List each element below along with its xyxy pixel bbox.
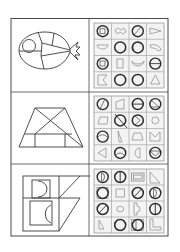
choice-grid-trapezoid — [94, 96, 164, 161]
b-shape-figure — [23, 176, 90, 231]
choice-grid-b-shape — [94, 169, 164, 233]
fish-figure — [19, 32, 80, 69]
choice-grid-fish — [94, 23, 164, 88]
trapezoid-figure — [19, 108, 83, 147]
worksheet — [0, 0, 180, 252]
